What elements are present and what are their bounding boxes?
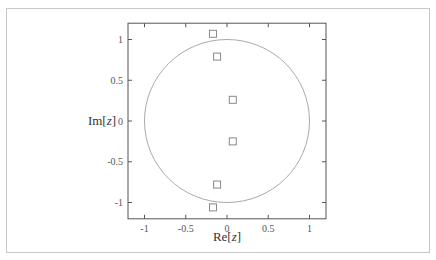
square-marker xyxy=(209,30,216,37)
y-tick-label: 0.5 xyxy=(111,75,124,86)
x-tick-label: 0.5 xyxy=(262,223,275,234)
square-marker xyxy=(229,96,236,103)
square-marker xyxy=(214,53,221,60)
unit-circle xyxy=(145,40,310,203)
y-tick-label: 0 xyxy=(118,116,123,127)
square-marker xyxy=(214,181,221,188)
data-markers xyxy=(209,30,236,211)
axes-frame xyxy=(128,23,326,219)
x-tick-label: -1 xyxy=(140,223,148,234)
square-marker xyxy=(229,138,236,145)
ticks xyxy=(128,23,326,219)
y-tick-label: -1 xyxy=(115,197,123,208)
y-axis-label: Im[z] xyxy=(88,113,116,128)
x-axis-label: Re[z] xyxy=(213,229,241,244)
x-tick-label: -0.5 xyxy=(178,223,194,234)
x-tick-label: 1 xyxy=(307,223,312,234)
y-tick-label: 1 xyxy=(118,34,123,45)
square-marker xyxy=(209,204,216,211)
plot-area: -1-0.500.51 -1-0.500.51 Re[z] Im[z] xyxy=(0,0,436,260)
y-tick-label: -0.5 xyxy=(107,156,123,167)
unit-circle-path xyxy=(145,40,310,203)
